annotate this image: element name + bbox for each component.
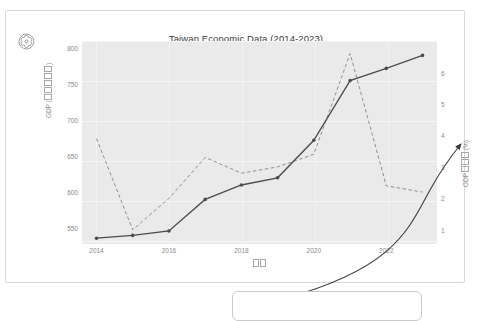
callout-box[interactable] <box>232 291 422 321</box>
